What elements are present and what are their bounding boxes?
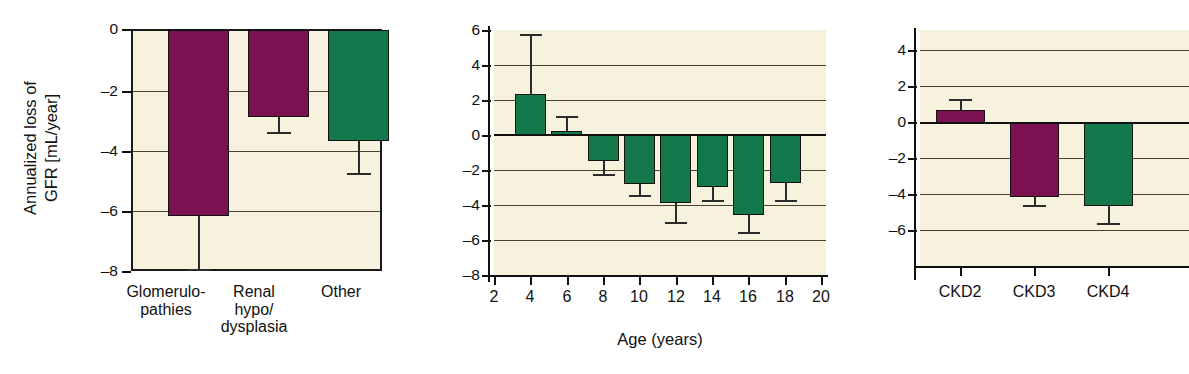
panel-c-x-axis-line	[914, 266, 1189, 268]
panel-c-errorbar-cap-ckd4	[1097, 223, 1120, 225]
panel-b-gridline--6	[494, 240, 826, 241]
panel-c-ytick-0: 0	[870, 114, 906, 130]
panel-c-bar-ckd4[interactable]	[1084, 122, 1133, 206]
panel-c-ytick--4: –4	[866, 186, 906, 202]
panel-b-x-axis-title: Age (years)	[560, 330, 760, 349]
panel-b-ytick--4: –4	[440, 197, 480, 213]
panel-b-tick-0	[482, 135, 491, 137]
panel-c-zero-line	[920, 122, 1189, 124]
panel-b-bar-age-16[interactable]	[733, 134, 764, 215]
panel-b-errorbar-line-age8	[603, 160, 605, 174]
panel-b-ytick--8: –8	[440, 267, 480, 283]
panel-b-errorbar-cap-age8	[593, 174, 615, 176]
panel-b-xtick-12	[676, 276, 678, 285]
panel-b-xlabel-8: 8	[583, 288, 623, 306]
panel-b-xlabel-6: 6	[547, 288, 587, 306]
panel-b-xlabel-10: 10	[619, 288, 659, 306]
panel-c-tick-2	[908, 86, 917, 88]
panel-c-tick-4	[908, 50, 917, 52]
panel-b-xtick-4	[530, 276, 532, 285]
figure-root: Annualized loss of GFR [mL/year] 0 –2 –4…	[0, 0, 1189, 374]
panel-c-ytick--6: –6	[866, 222, 906, 238]
panel-b-xtick-8	[603, 276, 605, 285]
panel-c-ytick--2: –2	[866, 150, 906, 166]
panel-c-errorbar-cap-ckd2	[949, 99, 972, 101]
panel-c-bar-ckd3[interactable]	[1010, 122, 1059, 197]
panel-b-x-axis-line	[488, 275, 828, 277]
panel-b-xtick-16	[748, 276, 750, 285]
panel-c-ytick-4: 4	[870, 42, 906, 58]
panel-b-xtick-6	[567, 276, 569, 285]
panel-b-tick--2	[482, 170, 491, 172]
panel-b-plot-area	[494, 30, 826, 275]
panel-c-xtick-ckd4	[1108, 267, 1110, 276]
panel-c-y-axis-spine	[914, 28, 916, 280]
panel-c-errorbar-cap-ckd3	[1023, 205, 1046, 207]
panel-b-xlabel-18: 18	[765, 288, 805, 306]
panel-b-errorbar-cap-age14	[702, 200, 724, 202]
panel-c-errorbar-line-ckd3	[1034, 196, 1036, 205]
panel-b-bar-age-14[interactable]	[697, 134, 728, 187]
panel-c-tick--4	[908, 194, 917, 196]
panel-c-errorbar-line-ckd4	[1108, 205, 1110, 223]
panel-b-xtick-20	[821, 276, 823, 285]
panel-b-bar-age-4[interactable]	[515, 94, 546, 136]
panel-b-errorbar-cap-age12	[665, 222, 687, 224]
panel-b-gridline-4	[494, 65, 826, 66]
panel-b-errorbar-line-age16	[748, 215, 750, 232]
panel-c-xlabel-ckd2: CKD2	[920, 283, 1000, 301]
panel-b-xtick-2	[494, 276, 496, 285]
panel-b-bar-age-12[interactable]	[660, 134, 691, 203]
panel-b-xlabel-14: 14	[692, 288, 732, 306]
panel-b-tick-2	[482, 100, 491, 102]
panel-b-xtick-10	[639, 276, 641, 285]
panel-b-tick--6	[482, 240, 491, 242]
panel-b-errorbar-line-age10	[639, 184, 641, 195]
panel-b-errorbar-cap-age10	[629, 195, 651, 197]
panel-c-xlabel-ckd4: CKD4	[1068, 283, 1148, 301]
panel-b-errorbar-cap-age4	[520, 34, 542, 36]
panel-b-bar-age-8[interactable]	[588, 134, 619, 161]
panel-b-errorbar-cap-age16	[738, 232, 760, 234]
panel-b-ytick--2: –2	[440, 162, 480, 178]
panel-c-tick--6	[908, 230, 917, 232]
panel-b-ytick-4: 4	[444, 57, 480, 73]
panel-b-xtick-18	[785, 276, 787, 285]
panel-c: 4 2 0 –2 –4 –6	[860, 0, 1189, 374]
panel-b-xtick-14	[712, 276, 714, 285]
panel-b-xlabel-16: 16	[728, 288, 768, 306]
panel-b-xlabel-20: 20	[801, 288, 841, 306]
panel-b-xlabel-2: 2	[474, 288, 514, 306]
panel-b-errorbar-line-age18	[785, 183, 787, 200]
panel-c-plot-area	[920, 30, 1189, 266]
panel-b-bar-age-18[interactable]	[770, 134, 801, 183]
panel-b-xlabel-4: 4	[510, 288, 550, 306]
panel-b-errorbar-line-age14	[712, 187, 714, 200]
panel-c-tick-0	[908, 122, 917, 124]
panel-c-tick--2	[908, 158, 917, 160]
panel-c-gridline-4	[920, 50, 1189, 51]
panel-c-xtick-ckd2	[960, 267, 962, 276]
panel-b-tick--4	[482, 205, 491, 207]
panel-c-xtick-ckd3	[1034, 267, 1036, 276]
panel-b-errorbar-line-age4	[530, 34, 532, 94]
panel-c-xlabel-ckd3: CKD3	[994, 283, 1074, 301]
panel-b-ytick-2: 2	[444, 92, 480, 108]
panel-b-tick-6	[482, 30, 491, 32]
panel-b-errorbar-cap-age6	[556, 116, 578, 118]
panel-b-tick-4	[482, 65, 491, 67]
panel-b-ytick-0: 0	[444, 127, 480, 143]
panel-b: 6 4 2 0 –2 –4 –6 –8	[0, 0, 870, 374]
panel-b-gridline--4	[494, 205, 826, 206]
panel-b-xlabel-12: 12	[656, 288, 696, 306]
panel-b-errorbar-line-age12	[675, 203, 677, 222]
panel-c-ytick-2: 2	[870, 78, 906, 94]
panel-b-ytick--6: –6	[440, 232, 480, 248]
panel-c-gridline-2	[920, 86, 1189, 87]
panel-b-errorbar-cap-age18	[775, 200, 797, 202]
panel-b-bar-age-10[interactable]	[624, 134, 655, 184]
panel-c-gridline--6	[920, 230, 1189, 231]
panel-b-zero-line	[494, 134, 826, 136]
panel-b-ytick-6: 6	[444, 22, 480, 38]
